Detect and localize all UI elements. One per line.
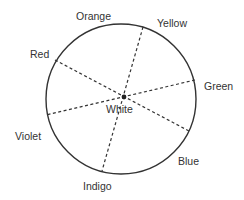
label-green: Green — [204, 80, 233, 92]
label-red: Red — [30, 48, 49, 60]
label-indigo: Indigo — [83, 180, 112, 192]
wheel-circle — [46, 24, 196, 174]
label-white: White — [106, 103, 133, 115]
red-blue-diameter — [55, 60, 189, 131]
yellow-indigo-diameter — [102, 27, 143, 171]
label-orange: Orange — [76, 10, 111, 22]
label-yellow: Yellow — [157, 17, 187, 29]
label-violet: Violet — [15, 130, 41, 142]
label-blue: Blue — [178, 155, 199, 167]
color-wheel-diagram: Orange Yellow Red Green White Violet Blu… — [0, 0, 244, 200]
center-dot — [122, 95, 127, 100]
